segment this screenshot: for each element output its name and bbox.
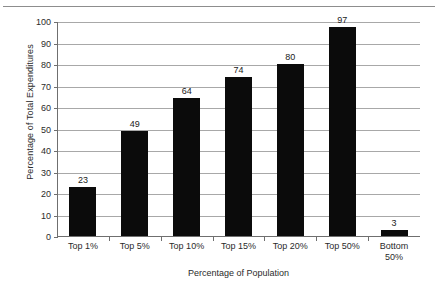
y-tick-mark	[54, 173, 58, 174]
y-tick-mark	[54, 237, 58, 238]
bar: 49	[121, 131, 148, 236]
y-tick-label: 90	[41, 39, 51, 49]
y-tick-label: 30	[41, 168, 51, 178]
x-tick-label: Top 5%	[109, 241, 161, 252]
y-tick-mark	[54, 151, 58, 152]
gridline	[57, 44, 420, 45]
y-tick-label: 10	[41, 211, 51, 221]
bar: 80	[277, 64, 304, 236]
x-tick-label: Top 15%	[213, 241, 265, 252]
bar: 3	[381, 230, 408, 236]
x-tick-label: Bottom 50%	[368, 241, 420, 263]
bar-value-label: 74	[233, 65, 243, 75]
y-tick-mark	[54, 216, 58, 217]
bar: 64	[173, 98, 200, 236]
bar-value-label: 23	[78, 175, 88, 185]
bar-value-label: 97	[337, 15, 347, 25]
y-tick-mark	[54, 44, 58, 45]
x-tick-label: Top 50%	[316, 241, 368, 252]
y-tick-mark	[54, 65, 58, 66]
bar: 74	[225, 77, 252, 236]
y-tick-label: 50	[41, 125, 51, 135]
y-tick-label: 40	[41, 146, 51, 156]
y-tick-mark	[54, 87, 58, 88]
bar-value-label: 49	[130, 119, 140, 129]
x-axis-title: Percentage of Population	[57, 268, 420, 278]
y-tick-label: 60	[41, 103, 51, 113]
y-tick-mark	[54, 108, 58, 109]
y-tick-mark	[54, 130, 58, 131]
x-tick-label: Top 10%	[161, 241, 213, 252]
y-tick-label: 20	[41, 189, 51, 199]
bar-value-label: 3	[392, 218, 397, 228]
y-tick-mark	[54, 194, 58, 195]
y-tick-label: 70	[41, 82, 51, 92]
gridline	[57, 22, 420, 23]
x-tick-label: Top 1%	[57, 241, 109, 252]
x-axis-line	[57, 236, 420, 237]
x-tick-label: Top 20%	[264, 241, 316, 252]
bar: 23	[69, 187, 96, 236]
plot-area: 0102030405060708090100 2349647480973	[57, 22, 420, 237]
bar-chart-figure: Percentage of Total Expenditures 0102030…	[0, 0, 439, 289]
y-tick-label: 100	[36, 17, 51, 27]
bar-value-label: 64	[182, 86, 192, 96]
y-tick-label: 80	[41, 60, 51, 70]
y-axis-title: Percentage of Total Expenditures	[25, 0, 35, 232]
bar-value-label: 80	[285, 52, 295, 62]
y-tick-mark	[54, 22, 58, 23]
page-divider-rule	[3, 6, 435, 7]
bar: 97	[329, 27, 356, 236]
y-tick-label: 0	[46, 232, 51, 242]
